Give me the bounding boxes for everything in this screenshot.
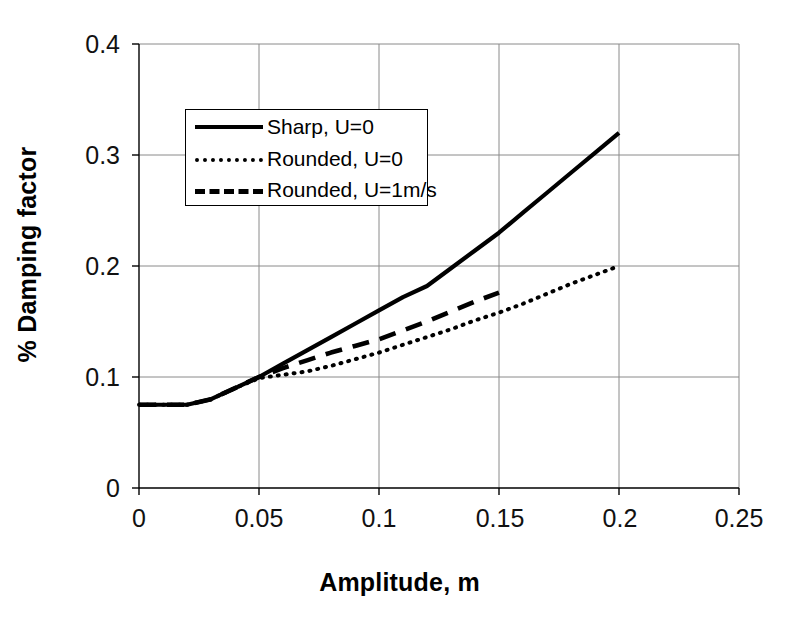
legend-label-rounded-u1: Rounded, U=1m/s (267, 178, 437, 202)
legend-item-rounded-u0: Rounded, U=0 (186, 143, 429, 175)
legend-key-solid-icon (193, 118, 266, 136)
legend-label-rounded-u0: Rounded, U=0 (267, 147, 403, 171)
chart-figure: % Damping factor 0.4 0.3 0.2 0.1 0 0 0.0… (0, 0, 799, 626)
legend-label-sharp-u0: Sharp, U=0 (267, 115, 374, 139)
legend: Sharp, U=0 Rounded, U=0 Rounded, U=1m/s (185, 109, 428, 206)
legend-item-sharp-u0: Sharp, U=0 (186, 111, 429, 143)
legend-key-dotted-icon (193, 150, 266, 168)
x-axis-title: Amplitude, m (0, 568, 799, 597)
plot-canvas (0, 0, 799, 626)
legend-item-rounded-u1: Rounded, U=1m/s (186, 174, 429, 206)
legend-key-dashed-icon (193, 181, 266, 199)
